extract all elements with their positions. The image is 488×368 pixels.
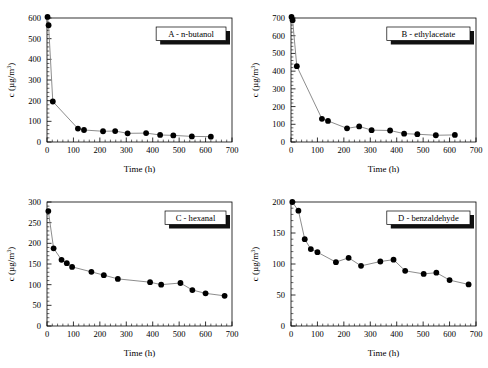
panel-b-x-axis-title: Time (h): [368, 164, 399, 174]
y-tick-label: 400: [272, 66, 285, 76]
panel-c-plot: 0100200300400500600700050100150200250300…: [0, 184, 244, 368]
data-point: [64, 260, 70, 266]
x-tick-label: 100: [67, 329, 80, 339]
x-tick-label: 700: [470, 145, 483, 155]
figure-panel-grid: 0100200300400500600700010020030040050060…: [0, 0, 488, 368]
data-point: [302, 236, 308, 242]
x-tick-label: 0: [289, 145, 293, 155]
data-point: [115, 276, 121, 282]
x-tick-label: 600: [199, 145, 212, 155]
x-tick-label: 700: [470, 329, 483, 339]
data-point: [45, 14, 51, 20]
svg-text:c (µg/m3): c (µg/m3): [250, 63, 260, 97]
panel-d-x-axis: 0100200300400500600700: [289, 322, 483, 339]
data-point: [333, 259, 339, 265]
x-tick-label: 500: [173, 145, 186, 155]
y-tick-label: 400: [28, 54, 41, 64]
panel-d-y-axis-title: c (µg/m3): [250, 247, 260, 281]
data-point: [346, 255, 352, 261]
legend-label: A - n-butanol: [168, 29, 214, 39]
x-tick-label: 300: [364, 145, 377, 155]
data-point: [290, 17, 296, 23]
x-tick-label: 400: [146, 329, 159, 339]
data-point: [377, 259, 383, 265]
panel-b-y-axis: 0100200300400500600700: [272, 13, 295, 147]
y-tick-label: 200: [272, 102, 285, 112]
data-point: [369, 127, 375, 133]
data-point: [50, 99, 56, 105]
data-point: [170, 132, 176, 138]
y-tick-label: 50: [277, 290, 286, 300]
panel-d-y-axis: 050100150200: [272, 197, 295, 331]
svg-text:c (µg/m3): c (µg/m3): [250, 247, 260, 281]
x-tick-label: 0: [289, 329, 293, 339]
data-point: [452, 132, 458, 138]
panel-c-x-axis-title: Time (h): [124, 348, 155, 358]
x-tick-label: 700: [226, 145, 239, 155]
data-point: [308, 246, 314, 252]
y-tick-label: 50: [33, 300, 42, 310]
y-tick-label: 200: [272, 197, 285, 207]
x-tick-label: 300: [364, 329, 377, 339]
data-point: [178, 280, 184, 286]
data-point: [51, 245, 57, 251]
panel-a-legend: A - n-butanol: [156, 27, 230, 45]
y-tick-label: 0: [37, 137, 41, 147]
data-point: [189, 287, 195, 293]
data-point: [158, 282, 164, 288]
y-tick-label: 100: [28, 280, 41, 290]
panel-c-legend: C - hexanal: [165, 211, 230, 229]
data-point: [143, 130, 149, 136]
y-tick-label: 500: [28, 34, 41, 44]
panel-a-y-axis: 0100200300400500600: [28, 13, 51, 147]
x-tick-label: 600: [199, 329, 212, 339]
data-point: [325, 118, 331, 124]
y-tick-label: 200: [28, 238, 41, 248]
panel-a-plot: 0100200300400500600700010020030040050060…: [0, 0, 244, 184]
data-point: [75, 126, 81, 132]
x-tick-label: 200: [337, 145, 350, 155]
y-tick-label: 100: [272, 119, 285, 129]
svg-text:c (µg/m3): c (µg/m3): [6, 247, 16, 281]
x-tick-label: 500: [417, 329, 430, 339]
x-tick-label: 200: [93, 145, 106, 155]
data-point: [402, 268, 408, 274]
y-tick-label: 250: [28, 218, 41, 228]
panel-b-legend: B - ethylacetate: [387, 27, 474, 45]
data-point: [46, 22, 52, 28]
data-point: [294, 63, 300, 69]
panel-c-y-axis-title: c (µg/m3): [6, 247, 16, 281]
data-point: [222, 293, 228, 299]
legend-label: C - hexanal: [176, 213, 216, 223]
data-point: [189, 134, 195, 140]
data-point: [414, 131, 420, 137]
panel-a-y-axis-title: c (µg/m3): [6, 63, 16, 97]
panel-c-y-axis: 050100150200250300: [28, 197, 51, 331]
y-tick-label: 300: [272, 84, 285, 94]
x-tick-label: 300: [120, 145, 133, 155]
data-point: [296, 208, 302, 214]
panel-d-legend: D - benzaldehyde: [387, 211, 474, 229]
y-tick-label: 150: [28, 259, 41, 269]
data-point: [315, 249, 321, 255]
x-tick-label: 600: [443, 329, 456, 339]
x-tick-label: 200: [93, 329, 106, 339]
x-tick-label: 0: [45, 329, 49, 339]
data-point: [401, 131, 407, 137]
x-tick-label: 400: [390, 329, 403, 339]
data-point: [69, 264, 75, 270]
data-point: [466, 282, 472, 288]
panel-b-plot: 0100200300400500600700010020030040050060…: [244, 0, 488, 184]
x-tick-label: 300: [120, 329, 133, 339]
x-tick-label: 600: [443, 145, 456, 155]
y-tick-label: 0: [37, 321, 41, 331]
panel-b-y-axis-title: c (µg/m3): [250, 63, 260, 97]
x-tick-label: 500: [173, 329, 186, 339]
data-point: [89, 269, 95, 275]
y-tick-label: 200: [28, 96, 41, 106]
data-point: [59, 257, 65, 263]
data-point: [147, 279, 153, 285]
data-point: [289, 199, 295, 205]
y-tick-label: 100: [28, 116, 41, 126]
legend-label: D - benzaldehyde: [398, 213, 459, 223]
